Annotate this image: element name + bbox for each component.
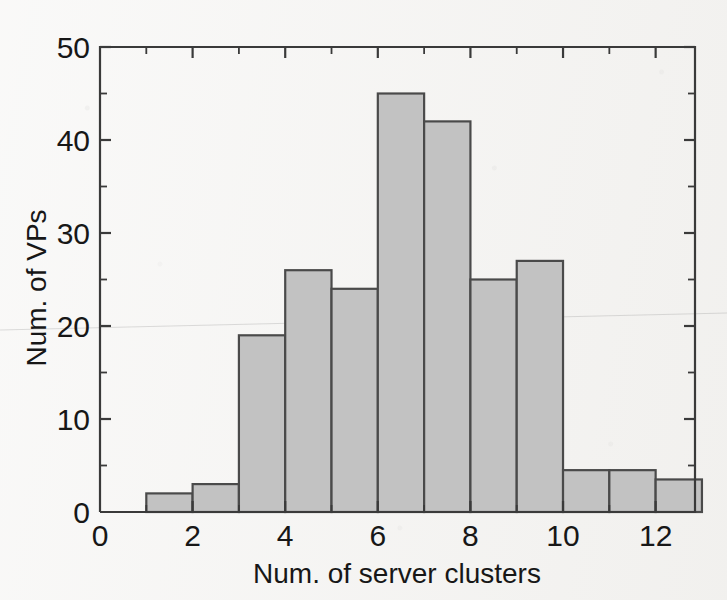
y-axis-title: Num. of VPs <box>21 209 52 366</box>
histogram-bar <box>285 270 331 512</box>
y-tick-label: 20 <box>57 310 90 343</box>
histogram-bar <box>517 261 563 512</box>
y-tick-label: 0 <box>73 496 90 529</box>
histogram-bar <box>239 335 285 512</box>
x-axis-tick-labels: 024681012 <box>92 519 673 552</box>
histogram-bar <box>378 94 424 513</box>
histogram-bar <box>424 121 470 512</box>
histogram-bar <box>470 280 516 513</box>
y-axis-tick-labels: 01020304050 <box>57 31 90 529</box>
y-tick-label: 50 <box>57 31 90 64</box>
x-tick-label: 12 <box>639 519 672 552</box>
y-tick-label: 10 <box>57 403 90 436</box>
x-tick-label: 6 <box>369 519 386 552</box>
x-axis-title: Num. of server clusters <box>253 558 541 589</box>
x-tick-label: 0 <box>92 519 109 552</box>
y-tick-label: 30 <box>57 217 90 250</box>
x-tick-label: 10 <box>546 519 579 552</box>
histogram-bar <box>332 289 378 512</box>
y-tick-label: 40 <box>57 124 90 157</box>
histogram-figure: 01020304050024681012Num. of server clust… <box>0 0 727 600</box>
x-tick-label: 8 <box>462 519 479 552</box>
histogram-bar <box>563 470 609 512</box>
chart-canvas: 01020304050024681012Num. of server clust… <box>0 0 727 600</box>
x-tick-label: 4 <box>277 519 294 552</box>
histogram-bar <box>609 470 655 512</box>
x-tick-label: 2 <box>184 519 201 552</box>
histogram-bar <box>193 484 239 512</box>
bars-group <box>146 94 702 513</box>
histogram-bar <box>146 493 192 512</box>
